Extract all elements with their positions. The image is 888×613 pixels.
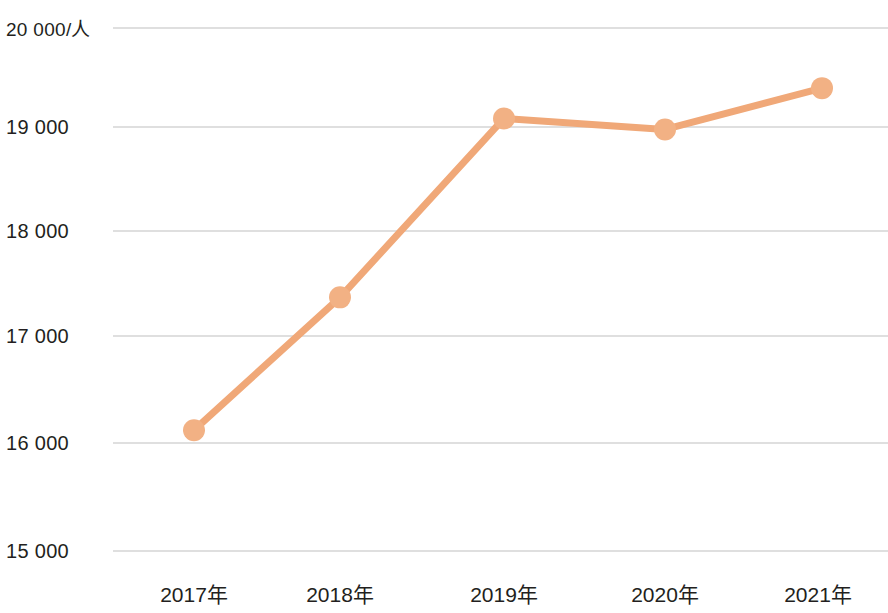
x-axis-label-2017: 2017年 xyxy=(160,584,228,605)
series-line-group xyxy=(183,77,833,441)
x-axis-label-2018: 2018年 xyxy=(306,584,374,605)
gridlines xyxy=(113,28,888,551)
y-axis-label-16000: 16 000 xyxy=(6,433,106,453)
series-markers xyxy=(183,77,833,441)
data-point-2020[interactable] xyxy=(654,118,676,140)
y-axis-label-19000: 19 000 xyxy=(6,117,106,137)
chart-plot-area xyxy=(0,0,888,613)
data-point-2017[interactable] xyxy=(183,419,205,441)
line-chart: 20 000/人 19 000 18 000 17 000 16 000 15 … xyxy=(0,0,888,613)
y-axis-label-20000: 20 000/人 xyxy=(6,20,106,39)
y-axis-label-18000: 18 000 xyxy=(6,221,106,241)
y-axis-label-17000: 17 000 xyxy=(6,326,106,346)
data-point-2019[interactable] xyxy=(493,107,515,129)
x-axis-label-2021: 2021年 xyxy=(784,584,852,605)
series-line xyxy=(194,88,822,430)
y-axis-label-15000: 15 000 xyxy=(6,541,106,561)
data-point-2021[interactable] xyxy=(811,77,833,99)
x-axis-label-2019: 2019年 xyxy=(470,584,538,605)
data-point-2018[interactable] xyxy=(329,286,351,308)
x-axis-label-2020: 2020年 xyxy=(631,584,699,605)
